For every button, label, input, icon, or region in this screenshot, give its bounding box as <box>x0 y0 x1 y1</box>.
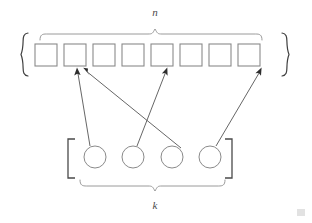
circle-cell-4 <box>199 146 221 168</box>
square-cell-8 <box>238 44 260 66</box>
bottom-brace-path <box>80 180 225 191</box>
top-brace <box>40 29 262 40</box>
square-cell-1 <box>35 44 57 66</box>
arrow-head-icon <box>74 68 80 76</box>
diagram-canvas: n k <box>0 0 312 223</box>
arrow-shaft <box>137 73 165 146</box>
square-cell-3 <box>93 44 115 66</box>
right-curly-brace-icon <box>282 33 289 76</box>
circle-cell-3 <box>161 146 183 168</box>
bottom-circles-row <box>84 146 221 168</box>
square-cell-7 <box>209 44 231 66</box>
arrow-head-icon <box>83 68 90 76</box>
arrow-group <box>74 68 261 149</box>
circle-cell-2 <box>122 146 144 168</box>
arrow-circle1-to-square2 <box>74 68 90 147</box>
arrow-shaft <box>216 73 259 146</box>
left-curly-brace-icon <box>21 33 28 76</box>
top-squares-row <box>35 44 260 66</box>
top-group-label-n: n <box>152 6 158 18</box>
diagram-svg: n k <box>0 0 312 223</box>
square-cell-6 <box>180 44 202 66</box>
left-square-bracket-icon <box>68 139 75 178</box>
arrow-circle2-to-square5 <box>137 68 168 147</box>
square-cell-5 <box>151 44 173 66</box>
arrow-circle3-to-square2 <box>83 68 181 148</box>
square-cell-2 <box>64 44 86 66</box>
circle-cell-1 <box>84 146 106 168</box>
bottom-group-label-k: k <box>153 199 159 211</box>
square-cell-4 <box>122 44 144 66</box>
arrow-circle4-to-square8 <box>216 68 262 146</box>
arrow-shaft <box>88 72 181 148</box>
top-brace-path <box>40 29 262 40</box>
bottom-brace <box>80 180 225 191</box>
arrow-shaft <box>78 73 90 147</box>
right-square-bracket-icon <box>225 139 232 178</box>
corner-artifact <box>297 209 305 216</box>
